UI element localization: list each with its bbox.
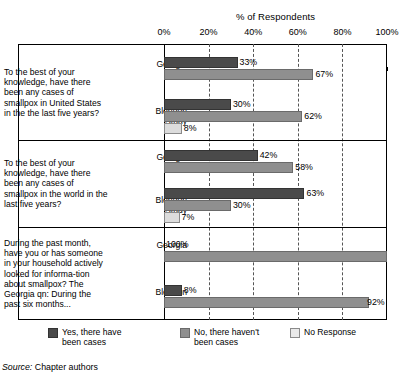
- question-text: During the past month, have you or has s…: [4, 238, 108, 309]
- question-text: To the best of your knowledge, have ther…: [4, 67, 108, 118]
- bar-value-label: 30%: [231, 200, 251, 211]
- bar: [164, 285, 182, 296]
- bar-value-label: 92%: [365, 297, 385, 308]
- source-label: Source:: [2, 362, 32, 372]
- legend-item[interactable]: No Response: [290, 327, 356, 338]
- bar: [164, 212, 180, 223]
- bar-value-label: 62%: [302, 111, 322, 122]
- bar: [164, 111, 302, 122]
- legend-swatch-icon: [48, 328, 58, 338]
- gridline: [209, 44, 210, 320]
- gridline: [298, 44, 299, 320]
- x-tick-label: 100%: [375, 27, 398, 37]
- gridline: [342, 44, 343, 320]
- bar-value-label: 8%: [182, 285, 197, 296]
- bar: [164, 297, 369, 308]
- bar: [164, 251, 387, 262]
- legend-swatch-icon: [180, 328, 190, 338]
- bar-value-label: 30%: [231, 99, 251, 110]
- bar-value-label: 33%: [238, 57, 258, 68]
- legend-label: Yes, there have been cases: [62, 327, 121, 347]
- bar: [164, 123, 182, 134]
- source-note: Source: Chapter authors: [2, 362, 98, 372]
- x-tick-label: 60%: [289, 27, 307, 37]
- bar: [164, 57, 238, 68]
- legend-item[interactable]: No, there haven't been cases: [180, 327, 259, 347]
- value-axis: [164, 44, 165, 320]
- bar-value-label: 63%: [304, 188, 324, 199]
- bar: [164, 69, 313, 80]
- bar: [164, 150, 258, 161]
- bar: [164, 162, 293, 173]
- group-separator: [18, 140, 387, 141]
- x-tick-mark: [387, 67, 388, 71]
- gridline: [253, 44, 254, 320]
- x-tick-label: 40%: [244, 27, 262, 37]
- legend-label: No Response: [304, 327, 356, 337]
- bar-value-label: 42%: [258, 150, 278, 161]
- bar: [164, 188, 304, 199]
- x-axis-tick-labels: 0%20%40%60%80%100%: [0, 27, 414, 40]
- bar-value-label: 58%: [293, 162, 313, 173]
- bar-value-label: 100%: [164, 239, 189, 250]
- chart-legend: Yes, there have been casesNo, there have…: [18, 327, 387, 357]
- x-tick-label: 0%: [157, 27, 170, 37]
- x-tick-label: 80%: [333, 27, 351, 37]
- chart-figure: % of Respondents 0%20%40%60%80%100% To t…: [0, 0, 414, 382]
- bar: [164, 99, 231, 110]
- bar-value-label: 8%: [182, 123, 197, 134]
- source-text: Chapter authors: [35, 362, 98, 372]
- legend-swatch-icon: [290, 328, 300, 338]
- chart-title: % of Respondents: [164, 11, 387, 22]
- bar-value-label: 7%: [180, 212, 195, 223]
- bar: [164, 200, 231, 211]
- x-tick-label: 20%: [200, 27, 218, 37]
- legend-item[interactable]: Yes, there have been cases: [48, 327, 121, 347]
- legend-label: No, there haven't been cases: [194, 327, 259, 347]
- group-separator: [18, 227, 387, 228]
- question-text: To the best of your knowledge, have ther…: [4, 158, 108, 209]
- bar-value-label: 67%: [313, 69, 333, 80]
